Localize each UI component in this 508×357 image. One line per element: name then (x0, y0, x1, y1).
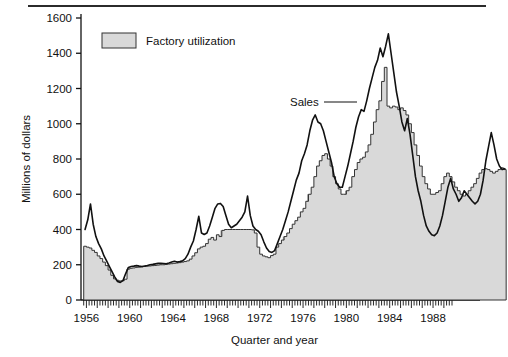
y-tick-label-1200: 1200 (46, 83, 72, 95)
y-tick-label-200: 200 (53, 259, 72, 271)
x-axis-title: Quarter and year (231, 334, 318, 346)
legend: Factory utilization (102, 33, 235, 48)
y-tick-label-600: 600 (53, 188, 72, 200)
x-tick-label-1956: 1956 (74, 312, 100, 324)
chart-figure: 0200400600800100012001400160019561960196… (0, 0, 508, 357)
x-tick-label-1980: 1980 (334, 312, 360, 324)
legend-label-factory-utilization: Factory utilization (146, 35, 235, 47)
y-tick-label-1600: 1600 (46, 12, 72, 24)
y-tick-label-1000: 1000 (46, 118, 72, 130)
annotation-group: Sales (290, 96, 357, 108)
x-tick-label-1972: 1972 (247, 312, 273, 324)
x-tick-label-1964: 1964 (160, 312, 186, 324)
chart-canvas: 0200400600800100012001400160019561960196… (0, 0, 508, 357)
legend-swatch-factory-utilization (102, 33, 136, 48)
y-tick-label-800: 800 (53, 153, 72, 165)
x-tick-label-1984: 1984 (377, 312, 403, 324)
x-tick-label-1988: 1988 (420, 312, 446, 324)
y-axis-title: Millions of dollars (20, 115, 32, 203)
y-tick-label-400: 400 (53, 224, 72, 236)
y-tick-label-1400: 1400 (46, 47, 72, 59)
x-tick-label-1960: 1960 (117, 312, 143, 324)
x-tick-label-1968: 1968 (204, 312, 230, 324)
y-tick-label-0: 0 (66, 294, 72, 306)
x-tick-label-1976: 1976 (290, 312, 316, 324)
sales-annotation-label: Sales (290, 96, 319, 108)
